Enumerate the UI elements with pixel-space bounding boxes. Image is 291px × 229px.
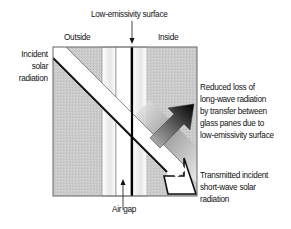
label-inside: Inside <box>158 31 178 42</box>
label-reduced-2: long-wave radiation <box>200 93 266 104</box>
down-arrow-icon <box>130 38 135 44</box>
label-outside: Outside <box>64 31 90 42</box>
label-reduced-1: Reduced loss of <box>200 81 255 92</box>
label-transmitted-3: radiation <box>200 193 229 204</box>
label-reduced-4: glass panes due to <box>200 117 264 128</box>
label-incident-1: Incident <box>21 48 48 59</box>
label-reduced-3: by transfer between <box>200 105 267 116</box>
label-incident-3: radiation <box>19 72 48 83</box>
label-air-gap: Air gap <box>112 203 136 214</box>
label-transmitted-2: short-wave solar <box>200 181 256 192</box>
label-incident-2: solar <box>32 60 48 71</box>
label-reduced-5: low-emissivity surface <box>200 129 274 140</box>
label-transmitted-1: Transmitted incident <box>200 169 268 180</box>
label-low-emissivity-surface: Low-emissivity surface <box>91 8 167 19</box>
glass-pane-outer <box>102 47 116 196</box>
